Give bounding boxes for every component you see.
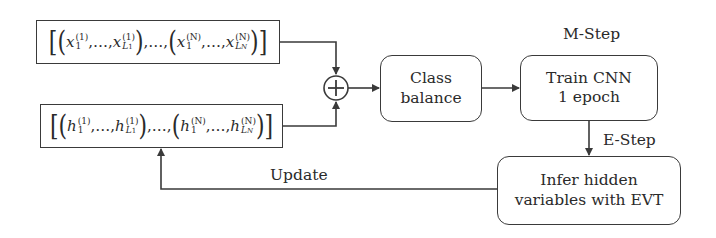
circle-plus-icon bbox=[324, 76, 348, 100]
edge-infer-to-h-update bbox=[161, 149, 497, 189]
ellipsis: … bbox=[206, 33, 221, 51]
sub: L1 bbox=[126, 126, 139, 135]
sub-idx: 1 bbox=[128, 43, 132, 51]
edge-h-to-concat bbox=[283, 102, 336, 126]
sub-idx: 1 bbox=[132, 127, 136, 135]
close-paren: ) bbox=[138, 112, 147, 140]
x-scripts: (1)1 bbox=[75, 33, 88, 50]
h-sequences-box: [( h(1)1 ,…, h(1)L1 ) ,…, ( h(N)1 ,…, h(… bbox=[40, 104, 283, 148]
close-bracket: ] bbox=[265, 112, 274, 140]
class-balance-line1: Class bbox=[410, 69, 452, 88]
infer-hidden-line1: Infer hidden bbox=[540, 171, 637, 190]
open-paren: ( bbox=[172, 112, 181, 140]
class-balance-line2: balance bbox=[400, 89, 461, 108]
open-paren: ( bbox=[58, 112, 67, 140]
sub: 1 bbox=[78, 126, 91, 135]
h-var: h bbox=[115, 117, 125, 135]
m-step-label: M-Step bbox=[563, 25, 620, 43]
open-paren: ( bbox=[57, 28, 66, 56]
h-scripts: (N)LN bbox=[241, 117, 256, 134]
infer-hidden-box: Infer hidden variables with EVT bbox=[497, 156, 681, 225]
x-scripts: (N)LN bbox=[235, 33, 250, 50]
h-scripts: (1)L1 bbox=[126, 117, 139, 134]
sub: 1 bbox=[191, 126, 206, 135]
x-sequences-box: [( x(1)1 ,…, x(1)L1 ) ,…, ( x(N)1 ,…, x(… bbox=[36, 20, 280, 64]
train-cnn-line1: Train CNN bbox=[546, 69, 632, 88]
x-var: x bbox=[66, 33, 74, 51]
ellipsis: … bbox=[95, 117, 110, 135]
x-var: x bbox=[177, 33, 185, 51]
sub: 1 bbox=[75, 42, 88, 51]
x-var: x bbox=[226, 33, 234, 51]
h-scripts: (1)1 bbox=[78, 117, 91, 134]
x-var: x bbox=[113, 33, 121, 51]
sub: LN bbox=[241, 126, 256, 135]
sub-idx: N bbox=[247, 127, 253, 135]
close-paren: ) bbox=[256, 112, 265, 140]
edge-x-to-concat bbox=[280, 42, 336, 74]
ellipsis: … bbox=[211, 117, 226, 135]
ellipsis: … bbox=[93, 33, 108, 51]
train-cnn-line2: 1 epoch bbox=[558, 88, 620, 107]
open-bracket: [ bbox=[50, 112, 59, 140]
open-bracket: [ bbox=[49, 28, 58, 56]
x-scripts: (N)1 bbox=[186, 33, 201, 50]
h-scripts: (N)1 bbox=[191, 117, 206, 134]
close-paren: ) bbox=[135, 28, 144, 56]
sub: LN bbox=[235, 42, 250, 51]
train-cnn-box: Train CNN 1 epoch bbox=[520, 55, 658, 121]
close-paren: ) bbox=[250, 28, 259, 56]
infer-hidden-line2: variables with EVT bbox=[515, 191, 664, 210]
h-var: h bbox=[230, 117, 240, 135]
x-scripts: (1)L1 bbox=[122, 33, 135, 50]
e-step-label: E-Step bbox=[603, 131, 656, 149]
class-balance-box: Class balance bbox=[380, 55, 482, 122]
close-bracket: ] bbox=[259, 28, 268, 56]
sub: 1 bbox=[186, 42, 201, 51]
h-var: h bbox=[180, 117, 190, 135]
sub: L1 bbox=[122, 42, 135, 51]
sub-idx: N bbox=[241, 43, 247, 51]
open-paren: ( bbox=[168, 28, 177, 56]
ellipsis: … bbox=[148, 33, 163, 51]
update-label: Update bbox=[270, 166, 328, 184]
h-var: h bbox=[67, 117, 77, 135]
ellipsis: … bbox=[152, 117, 167, 135]
